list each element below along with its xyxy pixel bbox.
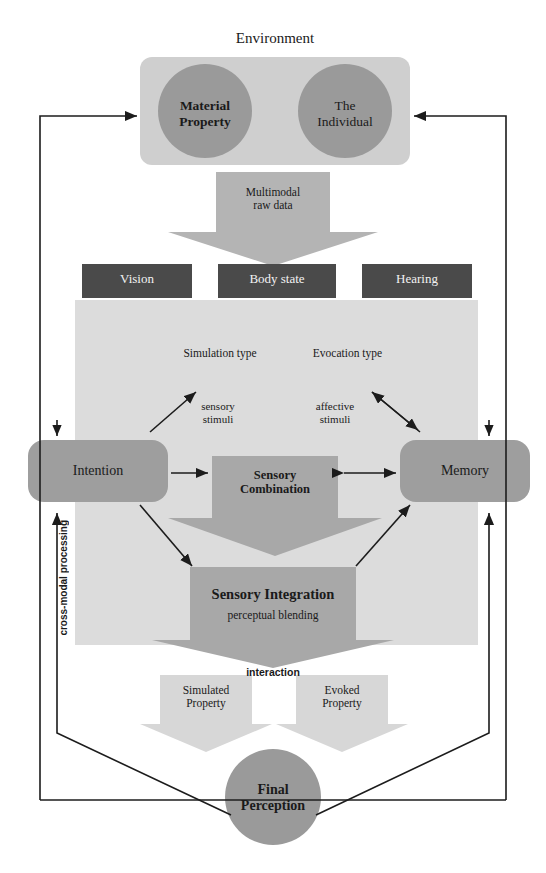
sensory-stimuli-line2: stimuli xyxy=(178,413,258,426)
affective-stimuli-line1: affective xyxy=(295,400,375,413)
sensory-integration-subtitle: perceptual blending xyxy=(173,609,373,622)
evocation-type-label: Evocation type xyxy=(285,347,410,360)
sensory-integration-title: Sensory Integration xyxy=(173,586,373,603)
affective-stimuli-label: affective stimuli xyxy=(295,400,375,425)
material-property-line1: Material xyxy=(160,98,250,114)
body-state-label: Body state xyxy=(218,272,336,287)
multimodal-line2: raw data xyxy=(213,199,333,212)
the-individual-line2: Individual xyxy=(300,114,390,130)
vision-label: Vision xyxy=(82,272,192,287)
memory-label: Memory xyxy=(400,463,530,479)
simulation-type-label: Simulation type xyxy=(155,347,285,360)
final-perception-label: Final Perception xyxy=(203,782,343,814)
multimodal-raw-data-label: Multimodal raw data xyxy=(213,186,333,212)
sensory-stimuli-label: sensory stimuli xyxy=(178,400,258,425)
material-property-line2: Property xyxy=(160,114,250,130)
simulated-property-line1: Simulated xyxy=(166,684,246,697)
the-individual-line1: The xyxy=(300,98,390,114)
diagram-canvas: Environment Material Property The Indivi… xyxy=(0,0,546,873)
sensory-stimuli-line1: sensory xyxy=(178,400,258,413)
hearing-label: Hearing xyxy=(362,272,472,287)
simulated-property-line2: Property xyxy=(166,697,246,710)
evoked-property-line2: Property xyxy=(302,697,382,710)
cross-modal-processing-label: cross-modal processing xyxy=(58,520,69,636)
intention-label: Intention xyxy=(28,463,168,479)
sensory-combination-label: Sensory Combination xyxy=(205,468,345,497)
interaction-label: interaction xyxy=(213,666,333,678)
sensory-combination-line2: Combination xyxy=(205,482,345,496)
sensory-combination-line1: Sensory xyxy=(205,468,345,482)
material-property-label: Material Property xyxy=(160,98,250,129)
evoked-property-label: Evoked Property xyxy=(302,684,382,710)
evoked-property-line1: Evoked xyxy=(302,684,382,697)
final-perception-line1: Final xyxy=(203,782,343,798)
the-individual-label: The Individual xyxy=(300,98,390,129)
final-perception-line2: Perception xyxy=(203,798,343,814)
affective-stimuli-line2: stimuli xyxy=(295,413,375,426)
multimodal-line1: Multimodal xyxy=(213,186,333,199)
simulated-property-label: Simulated Property xyxy=(166,684,246,710)
environment-title: Environment xyxy=(195,30,355,47)
diagram-vector-layer xyxy=(0,0,546,873)
